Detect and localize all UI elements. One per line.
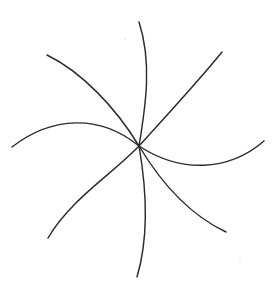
spiral-arm-8-upper-left [47,55,139,146]
spiral-arm-7-left [12,123,139,147]
spiral-arm-2-upper-right [139,52,222,146]
spiral-figure [0,0,272,288]
speck-lower-right [239,261,240,262]
spiral-arm-5-bottom [137,146,145,277]
spiral-arm-6-lower-left [48,146,139,238]
speck-upper-center [124,38,125,39]
spiral-arm-3-right [139,141,264,165]
figure-canvas [0,0,272,288]
spiral-arm-4-lower-right [139,146,226,232]
spiral-arm-1-top [139,22,147,146]
